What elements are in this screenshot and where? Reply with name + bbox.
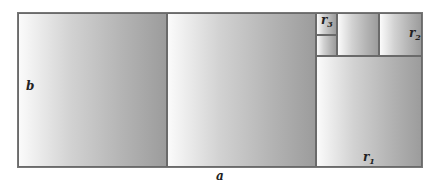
square-r3-below xyxy=(316,35,337,56)
label-r1: r1 xyxy=(363,150,375,166)
label-a: a xyxy=(216,169,224,183)
square-mid xyxy=(337,13,379,56)
label-r3: r3 xyxy=(321,13,333,29)
label-b: b xyxy=(26,79,34,93)
big-square-1 xyxy=(18,13,167,167)
big-square-2 xyxy=(167,13,316,167)
label-r2: r2 xyxy=(409,26,421,42)
